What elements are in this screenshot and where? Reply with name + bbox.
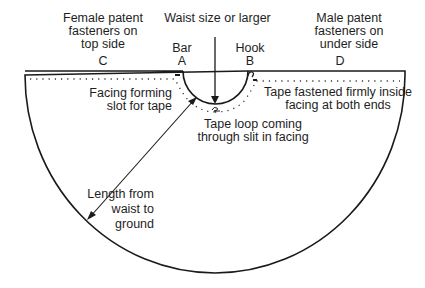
point-c-label: C	[93, 55, 113, 68]
waist-arrow-head	[211, 96, 219, 104]
label-line: ground	[80, 217, 154, 232]
label-line: slot for tape	[80, 100, 172, 113]
tape-fastened-label: Tape fastened firmly inside facing at bo…	[258, 86, 418, 112]
tape-loop-marker	[212, 107, 220, 111]
female-fasteners-label: Female patent fasteners on top side	[48, 12, 158, 51]
label-line: top side	[48, 38, 158, 51]
waist-size-label: Waist size or larger	[155, 12, 280, 25]
label-line: Length from	[80, 187, 154, 202]
point-b-label: B	[240, 55, 260, 68]
label-line: facing at both ends	[258, 99, 418, 112]
bar-marker	[175, 74, 180, 76]
length-label: Length from waist to ground	[80, 187, 154, 232]
label-line: under side	[294, 38, 404, 51]
male-fasteners-label: Male patent fasteners on under side	[294, 12, 404, 51]
tape-loop-label: Tape loop coming through slit in facing	[183, 118, 323, 144]
label-line: waist to	[80, 202, 154, 217]
hook-marker	[248, 72, 254, 77]
length-arrow-head-top	[188, 97, 197, 105]
point-a-label: A	[172, 55, 192, 68]
point-d-label: D	[330, 55, 350, 68]
tape-end-marker	[253, 79, 257, 81]
label-line: through slit in facing	[183, 131, 323, 144]
facing-slot-label: Facing forming slot for tape	[80, 87, 172, 113]
